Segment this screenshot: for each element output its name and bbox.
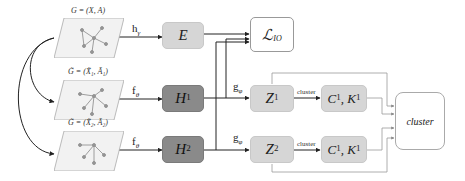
H2-sup: 2 <box>186 143 191 153</box>
cluster-box: cluster <box>395 92 445 150</box>
centroid-box-CK1: C1, K1 <box>321 85 367 112</box>
graph-label-original: G = (X, A) <box>48 6 128 15</box>
edge-label-g2: gφ <box>233 131 242 146</box>
edge-label-h: hγ <box>132 22 140 37</box>
edge-label-f1: fθ <box>132 84 139 99</box>
C-label: C <box>328 91 337 107</box>
H2-label: H <box>175 141 186 158</box>
graph-label-augmented-1: G̃ = (X̃₁, Ã₁) <box>48 67 128 76</box>
cluster-label: cluster <box>406 116 433 127</box>
embedding-box-H1: H1 <box>162 85 204 112</box>
graph-label-augmented-2: G̃ = (X̃₂, Ã₂) <box>48 118 128 127</box>
g-sub: φ <box>239 138 243 146</box>
Z1-label: Z <box>266 90 274 107</box>
E-label: E <box>178 27 187 44</box>
graph-panel-augmented-1 <box>54 80 124 120</box>
C-label: C <box>328 142 337 158</box>
edge-label-f2: fθ <box>132 135 139 150</box>
C-sup: 1 <box>336 143 341 153</box>
projection-box-Z1: Z1 <box>250 85 294 112</box>
Z1-sup: 1 <box>274 92 279 102</box>
h-sub: γ <box>138 29 141 37</box>
H1-sup: 1 <box>186 92 191 102</box>
f-sub: θ <box>136 142 139 150</box>
g-sub: φ <box>239 87 243 95</box>
H1-label: H <box>175 90 186 107</box>
C-sup: 1 <box>336 92 341 102</box>
embedding-box-H2: H2 <box>162 136 204 163</box>
encoder-box-E: E <box>162 22 204 49</box>
f-sub: θ <box>136 91 139 99</box>
K-sup: 1 <box>356 92 361 102</box>
Z2-sup: 2 <box>274 143 279 153</box>
edge-label-g1: gφ <box>233 80 242 95</box>
projection-box-Z2: Z2 <box>250 136 294 163</box>
cluster-edge-label-2: cluster <box>297 140 316 148</box>
graph-panel-original <box>54 18 124 58</box>
K-sup: 1 <box>356 143 361 153</box>
loss-label: ℒ <box>262 26 273 44</box>
K-label: , K <box>341 142 356 158</box>
graph-panel-augmented-2 <box>54 131 124 171</box>
Z2-label: Z <box>266 141 274 158</box>
loss-box: ℒIO <box>250 17 294 52</box>
loss-sub: IO <box>273 34 281 43</box>
cluster-edge-label-1: cluster <box>297 88 316 96</box>
centroid-box-CK2: C1, K1 <box>321 136 367 163</box>
K-label: , K <box>341 91 356 107</box>
